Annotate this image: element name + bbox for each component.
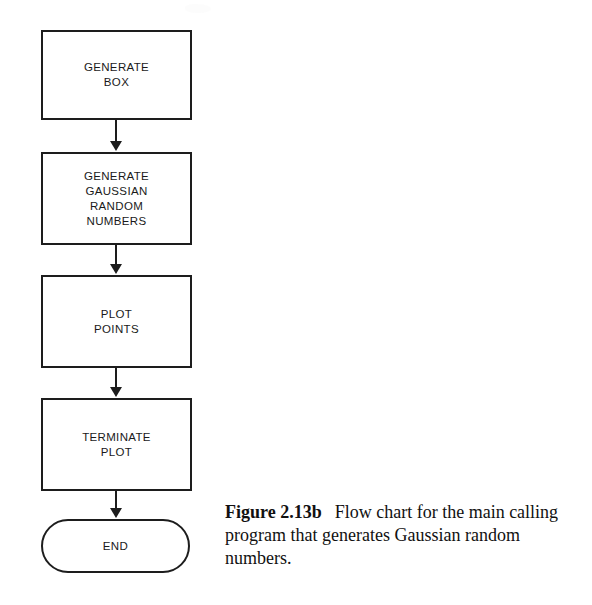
arrow-stem	[115, 491, 117, 510]
flow-node-generate-box: GENERATE BOX	[41, 30, 192, 120]
arrow-stem	[115, 120, 117, 143]
arrow-head-down-icon	[110, 387, 122, 397]
arrow-stem	[115, 368, 117, 389]
flow-node-terminate-plot: TERMINATE PLOT	[41, 398, 192, 491]
figure-container: GENERATE BOX GENERATE GAUSSIAN RANDOM NU…	[0, 0, 592, 605]
figure-caption: Figure 2.13bFlow chart for the main call…	[225, 501, 575, 570]
arrow-stem	[115, 245, 117, 266]
flow-node-end: END	[41, 519, 190, 573]
flow-node-label: GENERATE GAUSSIAN RANDOM NUMBERS	[84, 169, 149, 229]
flow-node-label: PLOT POINTS	[94, 307, 139, 337]
flow-node-generate-gaussian-random-numbers: GENERATE GAUSSIAN RANDOM NUMBERS	[41, 152, 192, 245]
flow-node-plot-points: PLOT POINTS	[41, 275, 192, 368]
flowchart-diagram: GENERATE BOX GENERATE GAUSSIAN RANDOM NU…	[0, 0, 240, 605]
flow-arrow-generate-gaussian-to-plot-points	[0, 245, 240, 275]
flow-node-label: END	[103, 539, 128, 554]
flow-arrow-generate-box-to-generate-gaussian	[0, 120, 240, 152]
flow-node-label: TERMINATE PLOT	[82, 430, 151, 460]
flow-arrow-plot-points-to-terminate-plot	[0, 368, 240, 398]
figure-caption-label: Figure 2.13b	[225, 502, 322, 522]
arrow-head-down-icon	[110, 141, 122, 151]
flow-node-label: GENERATE BOX	[84, 60, 149, 90]
flow-arrow-terminate-plot-to-end	[0, 491, 240, 519]
arrow-head-down-icon	[110, 508, 122, 518]
arrow-head-down-icon	[110, 264, 122, 274]
